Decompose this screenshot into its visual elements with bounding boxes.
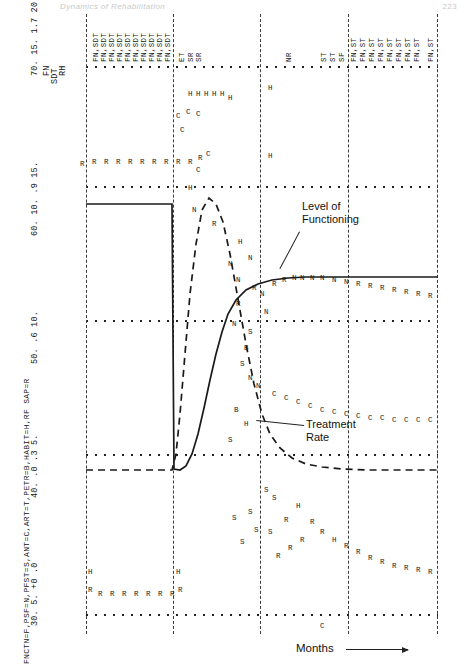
svg-text:R: R (178, 586, 183, 594)
svg-text:R: R (158, 590, 163, 598)
svg-text:H: H (196, 90, 201, 98)
svg-text:R: R (404, 564, 409, 572)
svg-text:R: R (288, 544, 293, 552)
svg-text:R: R (140, 158, 145, 166)
svg-text:R: R (276, 552, 281, 560)
svg-text:C: C (176, 112, 181, 120)
svg-text:C: C (196, 110, 201, 118)
svg-text:R: R (428, 292, 433, 300)
svg-text:R: R (122, 590, 127, 598)
svg-text:C: C (344, 410, 349, 418)
svg-text:H: H (332, 536, 337, 544)
svg-text:R: R (368, 554, 373, 562)
printer-plot: 70. 15. 1.7 20. 60. 10. .9 15. 50. .6 10… (0, 14, 465, 667)
svg-text:R: R (198, 154, 203, 162)
svg-text:R: R (344, 542, 349, 550)
running-head: Dynamics of Rehabilitation (60, 2, 165, 11)
svg-text:C: C (416, 416, 421, 424)
svg-text:C: C (308, 402, 313, 410)
svg-text:H: H (220, 90, 225, 98)
svg-text:H: H (212, 90, 217, 98)
svg-text:C: C (206, 150, 211, 158)
svg-text:R: R (310, 518, 315, 526)
svg-text:C: C (272, 390, 277, 398)
svg-text:H: H (188, 184, 193, 192)
svg-text:N: N (248, 254, 253, 262)
svg-text:C: C (320, 406, 325, 414)
svg-text:C: C (392, 416, 397, 424)
svg-text:C: C (284, 394, 289, 402)
svg-text:R: R (392, 562, 397, 570)
svg-text:C: C (404, 416, 409, 424)
svg-text:R: R (104, 158, 109, 166)
svg-text:N: N (236, 276, 241, 284)
svg-text:R: R (110, 590, 115, 598)
svg-text:S: S (240, 538, 245, 546)
svg-text:B: B (234, 406, 239, 414)
svg-text:S: S (240, 360, 245, 368)
svg-text:C: C (332, 408, 337, 416)
page-header: Dynamics of Rehabilitation 223 (0, 2, 465, 14)
annotation-level-of-functioning: Level of Functioning (302, 200, 359, 226)
svg-text:C: C (196, 166, 201, 174)
svg-text:H: H (238, 238, 243, 246)
svg-text:R: R (368, 282, 373, 290)
svg-text:N: N (344, 278, 349, 286)
svg-text:H: H (188, 90, 193, 98)
variable-legend: FNCTN=F,PSF=N,PFST=S,ANT=C,ART=T,PETR=B,… (22, 378, 31, 664)
svg-text:R: R (380, 284, 385, 292)
svg-text:R: R (416, 566, 421, 574)
svg-text:C: C (356, 412, 361, 420)
svg-text:R: R (88, 586, 93, 594)
svg-text:R: R (98, 590, 103, 598)
svg-text:N: N (260, 290, 265, 298)
annotation-lof-line2: Functioning (302, 213, 359, 226)
svg-text:R: R (146, 590, 151, 598)
svg-text:C: C (428, 416, 433, 424)
svg-text:C: C (320, 622, 325, 630)
svg-text:R: R (128, 158, 133, 166)
svg-text:R: R (416, 290, 421, 298)
svg-text:H: H (176, 568, 181, 576)
svg-text:H: H (228, 94, 233, 102)
svg-text:C: C (380, 414, 385, 422)
svg-text:S: S (232, 514, 237, 522)
svg-text:S: S (268, 528, 273, 536)
svg-text:N: N (192, 206, 197, 214)
svg-text:R: R (164, 158, 169, 166)
svg-text:R: R (188, 158, 193, 166)
svg-text:R: R (356, 280, 361, 288)
svg-text:S: S (248, 508, 253, 516)
months-arrow-icon (346, 649, 408, 650)
svg-text:S: S (248, 328, 253, 336)
svg-text:R: R (404, 288, 409, 296)
svg-text:R: R (356, 548, 361, 556)
svg-text:H: H (296, 502, 301, 510)
months-text: Months (296, 642, 334, 654)
svg-text:C: C (186, 108, 191, 116)
svg-text:R: R (176, 158, 181, 166)
svg-text:R: R (152, 158, 157, 166)
plot-curves-and-points: HHH HHH H CCC C RRR RRR RRR RRC C H H N … (0, 14, 465, 667)
svg-text:R: R (116, 158, 121, 166)
annotation-tr-line2: Rate (306, 431, 356, 444)
svg-text:C: C (368, 414, 373, 422)
annotation-tr-line1: Treatment (306, 418, 356, 431)
svg-text:H: H (204, 90, 209, 98)
svg-text:N: N (310, 274, 315, 282)
svg-text:N: N (232, 320, 237, 328)
svg-text:R: R (300, 536, 305, 544)
svg-text:N: N (264, 308, 269, 316)
svg-text:S: S (228, 436, 233, 444)
svg-text:R: R (80, 160, 85, 168)
svg-text:R: R (380, 558, 385, 566)
treatment-rate-curve (86, 198, 438, 470)
page-number: 223 (442, 2, 457, 11)
svg-text:R: R (92, 158, 97, 166)
svg-text:R: R (428, 568, 433, 576)
annotation-treatment-rate: Treatment Rate (306, 418, 356, 444)
x-axis-label-months: Months (296, 642, 334, 654)
svg-text:R: R (320, 528, 325, 536)
svg-text:H: H (244, 420, 249, 428)
svg-text:R: R (134, 590, 139, 598)
